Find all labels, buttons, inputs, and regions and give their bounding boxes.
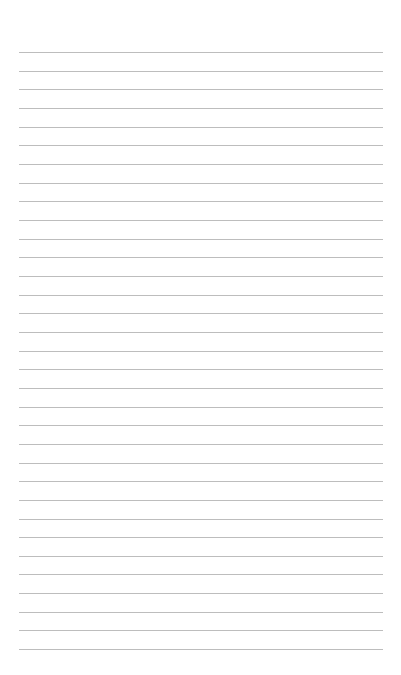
- lined-paper-page: [0, 0, 401, 675]
- ruled-line: [19, 481, 383, 482]
- ruled-line: [19, 313, 383, 314]
- ruled-line: [19, 612, 383, 613]
- ruled-line: [19, 127, 383, 128]
- ruled-line: [19, 630, 383, 631]
- ruled-line: [19, 89, 383, 90]
- ruled-line: [19, 351, 383, 352]
- ruled-line: [19, 574, 383, 575]
- ruled-line: [19, 257, 383, 258]
- ruled-line: [19, 164, 383, 165]
- ruled-line: [19, 220, 383, 221]
- ruled-line: [19, 276, 383, 277]
- ruled-line: [19, 463, 383, 464]
- ruled-line: [19, 71, 383, 72]
- ruled-line: [19, 201, 383, 202]
- ruled-line: [19, 183, 383, 184]
- ruled-line: [19, 332, 383, 333]
- ruled-line: [19, 444, 383, 445]
- ruled-line: [19, 537, 383, 538]
- ruled-line: [19, 108, 383, 109]
- ruled-line: [19, 52, 383, 53]
- ruled-line: [19, 593, 383, 594]
- ruled-line: [19, 556, 383, 557]
- ruled-line: [19, 369, 383, 370]
- ruled-line: [19, 145, 383, 146]
- ruled-line: [19, 239, 383, 240]
- ruled-line: [19, 407, 383, 408]
- ruled-line: [19, 388, 383, 389]
- ruled-line: [19, 649, 383, 650]
- ruled-line: [19, 519, 383, 520]
- ruled-line: [19, 295, 383, 296]
- ruled-line: [19, 425, 383, 426]
- ruled-line: [19, 500, 383, 501]
